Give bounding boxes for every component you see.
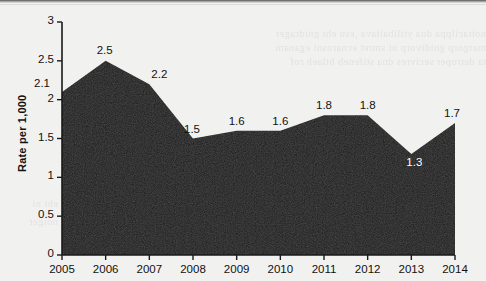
data-point-label: 2.2 — [144, 68, 174, 80]
x-axis-tick-label: 2012 — [346, 263, 390, 275]
x-axis-tick-label: 2010 — [258, 263, 302, 275]
y-axis-tick-label: 0 — [10, 247, 54, 259]
data-point-label: 1.7 — [437, 107, 467, 119]
x-axis-tick-label: 2013 — [389, 263, 433, 275]
y-axis-tick-label: 3 — [10, 14, 54, 26]
x-axis-tick-label: 2014 — [433, 263, 477, 275]
y-axis-tick-label: 1.5 — [10, 131, 54, 143]
data-point-label: 1.6 — [265, 115, 295, 127]
x-axis-tick-label: 2008 — [171, 263, 215, 275]
area-fill — [62, 61, 455, 255]
data-point-label: 1.8 — [309, 99, 339, 111]
data-point-label: 2.1 — [27, 77, 57, 89]
y-axis-tick-label: 0.5 — [10, 208, 54, 220]
data-point-label: 1.8 — [353, 99, 383, 111]
series-area — [62, 61, 455, 255]
x-axis-tick-label: 2006 — [84, 263, 128, 275]
data-point-label: 2.5 — [90, 44, 120, 56]
x-axis-tick-label: 2009 — [215, 263, 259, 275]
x-axis-tick-label: 2005 — [40, 263, 84, 275]
y-axis-tick-label: 1 — [10, 169, 54, 181]
x-axis-tick-label: 2011 — [302, 263, 346, 275]
area-chart-plot — [0, 0, 486, 281]
data-point-label: 1.5 — [177, 123, 207, 135]
data-point-label: 1.6 — [222, 115, 252, 127]
x-axis-tick-label: 2007 — [127, 263, 171, 275]
chart-figure: noitacilppa dna ytilibaliava ,esu eht gn… — [0, 0, 486, 281]
y-axis-tick-label: 2 — [10, 92, 54, 104]
data-point-label: 1.3 — [399, 156, 429, 168]
y-axis-tick-label: 2.5 — [10, 53, 54, 65]
